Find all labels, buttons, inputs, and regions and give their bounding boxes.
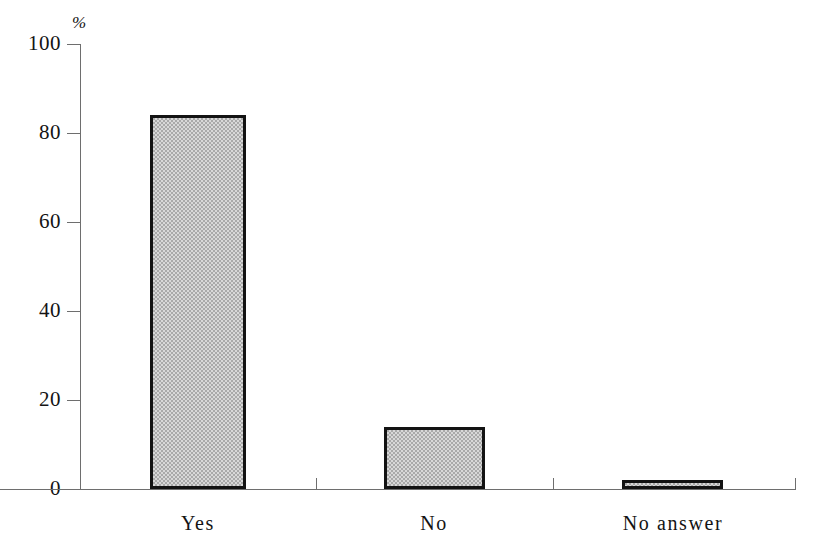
- bar-no-answer: [622, 480, 723, 489]
- y-axis-unit-label: %: [72, 14, 86, 31]
- y-axis-tick: [67, 222, 81, 223]
- bar-chart: % 020406080100 Yes No No answer: [0, 0, 823, 559]
- y-axis-tick-label-wrap: 40: [0, 300, 61, 321]
- x-axis-tick: [795, 478, 796, 490]
- x-axis-line: [0, 489, 796, 490]
- y-axis-tick-label-wrap: 20: [0, 389, 61, 410]
- y-axis-tick: [67, 400, 81, 401]
- y-axis-tick: [67, 44, 81, 45]
- y-axis-tick-label: 40: [3, 300, 61, 321]
- x-axis-category-label: Yes: [120, 512, 276, 534]
- y-axis-tick: [67, 133, 81, 134]
- y-axis-tick-label: 80: [3, 122, 61, 143]
- y-axis-tick-label-wrap: 100: [0, 33, 61, 54]
- y-axis-tick: [67, 311, 81, 312]
- x-axis-category-label: No answer: [595, 512, 751, 534]
- y-axis-tick-label: 100: [3, 33, 61, 54]
- bar-no: [384, 427, 485, 489]
- x-axis-tick: [553, 478, 554, 490]
- x-axis-category-label: No: [356, 512, 512, 534]
- y-axis-line: [80, 44, 81, 490]
- y-axis-tick-label: 60: [3, 211, 61, 232]
- y-axis-tick-label-wrap: 60: [0, 211, 61, 232]
- y-axis-tick-label-wrap: 80: [0, 122, 61, 143]
- bar-yes: [150, 115, 246, 489]
- y-axis-tick-label: 20: [3, 389, 61, 410]
- x-axis-tick: [316, 478, 317, 490]
